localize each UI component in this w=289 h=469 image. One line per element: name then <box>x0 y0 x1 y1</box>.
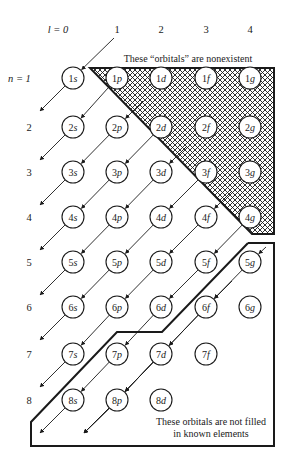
row-header-n7: 7 <box>26 349 31 360</box>
orbital-8d: 8d <box>150 389 172 411</box>
filling-arrow <box>125 180 153 209</box>
orbital-1p: 1p <box>106 67 128 89</box>
orbital-1f: 1f <box>195 67 217 89</box>
filling-arrow <box>125 135 153 164</box>
orbital-label: 4p <box>112 212 122 223</box>
column-header-l2: 2 <box>158 24 163 35</box>
orbital-label: 6d <box>156 302 167 313</box>
filling-arrow <box>40 315 65 340</box>
row-header-n4: 4 <box>26 212 32 223</box>
row-header-n1: n = 1 <box>8 73 31 84</box>
orbital-4s: 4s <box>62 206 84 228</box>
orbital-3f: 3f <box>195 161 217 183</box>
filling-arrow <box>40 408 65 433</box>
orbital-label: 5s <box>69 257 78 268</box>
orbital-label: 2g <box>245 122 255 133</box>
orbital-label: 1d <box>156 73 167 84</box>
orbital-label: 1s <box>69 73 78 84</box>
filling-arrow <box>125 362 153 391</box>
orbital-2p: 2p <box>106 116 128 138</box>
filling-arrow <box>81 135 109 164</box>
filling-arrow <box>214 225 242 254</box>
filling-arrow <box>40 86 65 111</box>
orbital-label: 1g <box>245 73 255 84</box>
orbital-label: 1f <box>202 73 211 84</box>
orbital-5f: 5f <box>195 251 217 273</box>
orbital-label: 6f <box>202 302 211 313</box>
orbital-label: 3p <box>112 167 122 178</box>
orbital-label: 7d <box>156 349 167 360</box>
column-header-l4: 4 <box>247 24 253 35</box>
orbital-6p: 6p <box>106 296 128 318</box>
filling-arrow <box>82 38 114 70</box>
orbital-label: 3d <box>156 167 167 178</box>
orbital-7p: 7p <box>106 343 128 365</box>
orbital-8s: 8s <box>62 389 84 411</box>
orbital-label: 7p <box>112 349 122 360</box>
row-header-n3: 3 <box>26 167 31 178</box>
filling-arrow <box>40 180 65 205</box>
orbital-label: 8d <box>156 395 167 406</box>
orbital-label: 6s <box>69 302 78 313</box>
orbital-label: 6g <box>245 302 255 313</box>
unfilled-caption-line1: These orbitals are not filled <box>156 416 266 427</box>
filling-arrow <box>81 86 110 118</box>
filling-arrow <box>81 315 109 345</box>
row-header-n8: 8 <box>26 395 31 406</box>
orbital-label: 4g <box>245 212 255 223</box>
orbital-2s: 2s <box>62 116 84 138</box>
filling-arrow <box>40 270 65 295</box>
filling-arrow <box>40 135 65 160</box>
orbital-label: 5d <box>156 257 167 268</box>
orbital-label: 4s <box>69 212 78 223</box>
unfilled-caption-line2: in known elements <box>173 428 249 439</box>
orbital-label: 5p <box>112 257 122 268</box>
orbital-label: 7s <box>69 349 78 360</box>
orbital-6d: 6d <box>150 296 172 318</box>
filling-arrow <box>214 281 232 299</box>
orbital-4d: 4d <box>150 206 172 228</box>
orbital-2d: 2d <box>150 116 172 138</box>
orbital-1d: 1d <box>150 67 172 89</box>
nonexistent-caption: These “orbitals” are nonexistent <box>124 53 253 64</box>
orbital-7s: 7s <box>62 343 84 365</box>
orbital-1g: 1g <box>239 67 261 89</box>
orbital-6g: 6g <box>239 296 261 318</box>
orbital-6f: 6f <box>195 296 217 318</box>
column-header-l0: l = 0 <box>48 24 69 35</box>
filling-arrow <box>125 225 153 254</box>
orbital-5g: 5g <box>239 251 261 273</box>
orbital-label: 6p <box>112 302 122 313</box>
orbital-label: 2f <box>202 122 211 133</box>
orbital-label: 2d <box>156 122 167 133</box>
orbital-2g: 2g <box>239 116 261 138</box>
orbital-5s: 5s <box>62 251 84 273</box>
orbital-2f: 2f <box>195 116 217 138</box>
filling-arrow <box>125 270 153 299</box>
orbital-label: 5f <box>202 257 211 268</box>
filling-arrow <box>84 408 109 433</box>
orbital-8p: 8p <box>106 389 128 411</box>
orbital-4p: 4p <box>106 206 128 228</box>
filling-arrow <box>81 270 109 299</box>
filling-arrow <box>81 225 109 254</box>
orbital-label: 3g <box>245 167 255 178</box>
orbital-label: 1p <box>112 73 122 84</box>
orbital-label: 2s <box>69 122 78 133</box>
filling-arrow <box>169 270 198 299</box>
filling-arrow <box>259 247 266 254</box>
orbital-3g: 3g <box>239 161 261 183</box>
column-header-l3: 3 <box>203 24 208 35</box>
orbital-label: 4d <box>156 212 167 223</box>
filling-arrow <box>169 225 198 254</box>
orbital-7d: 7d <box>150 343 172 365</box>
orbital-3s: 3s <box>62 161 84 183</box>
orbital-label: 2p <box>112 122 122 133</box>
orbital-label: 4f <box>202 212 211 223</box>
filling-arrow <box>40 362 65 387</box>
orbital-6s: 6s <box>62 296 84 318</box>
orbital-3p: 3p <box>106 161 128 183</box>
orbital-3d: 3d <box>150 161 172 183</box>
filling-arrow <box>81 180 109 209</box>
orbital-5p: 5p <box>106 251 128 273</box>
